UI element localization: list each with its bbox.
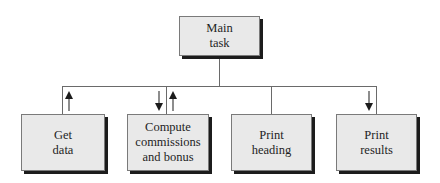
data-flow-up-arrow-icon: [169, 91, 177, 111]
compute-commissions-box: Compute commissions and bonus: [127, 114, 209, 171]
data-flow-down-arrow-icon: [365, 91, 373, 111]
main-task-label: Main task: [206, 21, 232, 51]
root-stem-line: [219, 57, 220, 87]
structure-chart: Main task Get data Compute commissions a…: [0, 0, 440, 183]
get-data-box: Get data: [21, 114, 105, 171]
data-flow-up-arrow-icon: [65, 91, 73, 111]
child-2-stem-line: [166, 86, 167, 114]
print-results-label: Print results: [360, 128, 393, 158]
child-3-stem-line: [271, 86, 272, 114]
get-data-label: Get data: [53, 128, 74, 158]
compute-commissions-label: Compute commissions and bonus: [135, 120, 200, 165]
data-flow-down-arrow-icon: [155, 91, 163, 111]
child-1-stem-line: [62, 86, 63, 114]
print-heading-label: Print heading: [252, 128, 292, 158]
print-heading-box: Print heading: [231, 114, 312, 171]
main-task-box: Main task: [179, 16, 260, 56]
child-4-stem-line: [376, 86, 377, 114]
print-results-box: Print results: [336, 114, 417, 171]
horizontal-bus-line: [62, 86, 377, 87]
